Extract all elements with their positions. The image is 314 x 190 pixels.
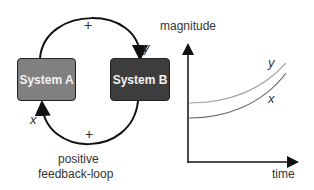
top-plus-sign: + [84,17,92,33]
caption-line2: feedback-loop [38,167,113,181]
x-axis-label: time [272,167,295,181]
caption-line1: positive [58,152,99,166]
series-y-label: y [268,55,275,70]
system-b-label: System B [113,73,168,87]
var-y-label: y [143,40,150,55]
system-b-box: System B [110,58,170,101]
system-a-label: System A [19,73,73,87]
y-axis-label: magnitude [160,19,216,33]
series-x-label: x [268,91,275,106]
var-x-label: x [30,112,37,127]
bottom-plus-sign: + [85,126,93,142]
system-a-box: System A [17,58,76,101]
